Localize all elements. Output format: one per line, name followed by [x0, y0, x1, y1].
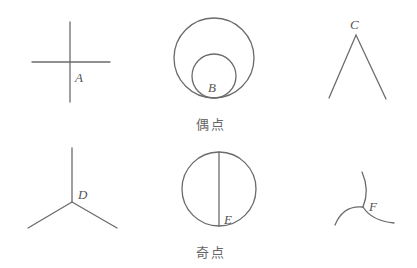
- segment-right: [72, 202, 117, 228]
- figure-c-angle: C: [329, 17, 386, 99]
- curve-right: [363, 207, 394, 223]
- graph-vertex-degree-diagram: A B 偶点 C D E 奇点 F: [0, 0, 417, 268]
- curve-left: [335, 207, 363, 225]
- figure-e-circle-diameter: E: [182, 152, 256, 227]
- figure-d-three-segments: D: [28, 148, 117, 228]
- curve-up: [362, 172, 366, 207]
- point-label-f: F: [368, 199, 378, 214]
- point-label-c: C: [350, 17, 359, 32]
- angle-lines: [329, 35, 386, 99]
- point-label-a: A: [74, 70, 83, 85]
- point-label-b: B: [208, 80, 216, 95]
- group-label-even: 偶点: [196, 117, 226, 132]
- point-label-e: E: [223, 212, 232, 227]
- point-label-d: D: [77, 187, 88, 202]
- segment-left: [28, 202, 72, 228]
- figure-f-three-curves: F: [335, 172, 394, 225]
- group-label-odd: 奇点: [196, 245, 226, 260]
- figure-a-cross: A: [32, 22, 110, 102]
- figure-b-tangent-circles: B: [174, 18, 254, 98]
